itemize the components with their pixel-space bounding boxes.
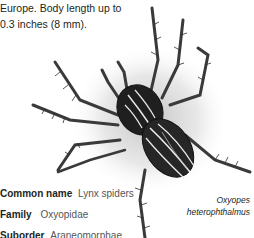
intro-line-2: 0.3 inches (8 mm). bbox=[0, 17, 150, 33]
fact-label: Suborder bbox=[0, 230, 44, 238]
caption-genus: Oxyopes bbox=[187, 194, 250, 206]
fact-value: Lynx spiders bbox=[78, 188, 134, 199]
fact-family: Family Oxyopidae bbox=[0, 204, 134, 225]
intro-line-1: Europe. Body length up to bbox=[0, 1, 150, 17]
fact-value: Araneomorphae bbox=[50, 230, 122, 238]
fact-value: Oxyopidae bbox=[40, 209, 88, 220]
fact-common-name: Common name Lynx spiders bbox=[0, 183, 134, 204]
species-caption: Oxyopes heterophthalmus bbox=[187, 194, 250, 218]
species-facts: Common name Lynx spiders Family Oxyopida… bbox=[0, 183, 134, 238]
caption-species: heterophthalmus bbox=[187, 206, 250, 218]
fact-suborder: Suborder Araneomorphae bbox=[0, 225, 134, 238]
fact-label: Family bbox=[0, 209, 32, 220]
fact-label: Common name bbox=[0, 188, 72, 199]
intro-text: Europe. Body length up to 0.3 inches (8 … bbox=[0, 1, 150, 32]
